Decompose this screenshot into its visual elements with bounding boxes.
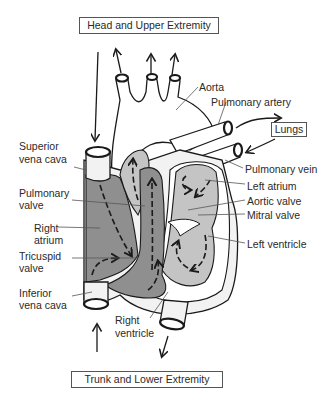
label-right-ventricle-2: ventricle: [115, 327, 154, 339]
label-superior-vena-cava-2: vena cava: [19, 153, 67, 165]
from-lungs-arrow: [247, 139, 275, 152]
label-pulmonary-artery: Pulmonary artery: [211, 96, 291, 108]
label-tricuspid-valve-2: valve: [19, 262, 44, 274]
label-aorta: Aorta: [199, 81, 224, 93]
label-aortic-valve: Aortic valve: [247, 195, 301, 207]
label-superior-vena-cava-1: Superior: [19, 140, 59, 152]
label-pulmonary-valve-1: Pulmonary: [19, 187, 69, 199]
label-tricuspid-valve-1: Tricuspid: [19, 250, 61, 262]
brachiocephalic-outflow-arrow: [116, 50, 121, 73]
descending-aorta-outflow-arrow: [162, 336, 168, 356]
heart-diagram: Head and Upper Extremity Trunk and Lower…: [0, 0, 335, 408]
superior-vena-cava-shape: [86, 147, 110, 181]
label-inferior-vena-cava-1: Inferior: [19, 287, 52, 299]
svc-inflow-arrow: [95, 52, 98, 140]
label-right-ventricle-1: Right: [115, 314, 140, 326]
label-left-atrium: Left atrium: [247, 180, 297, 192]
subclavian-outflow-arrow: [172, 55, 175, 75]
label-pulmonary-valve-2: valve: [19, 199, 44, 211]
descending-aorta-shape: [159, 300, 188, 331]
head-upper-extremity-box: Head and Upper Extremity: [79, 17, 219, 34]
label-pulmonary-vein: Pulmonary vein: [245, 163, 317, 175]
label-inferior-vena-cava-2: vena cava: [19, 299, 67, 311]
trunk-lower-extremity-box: Trunk and Lower Extremity: [71, 371, 223, 388]
lungs-box: Lungs: [271, 122, 307, 137]
inferior-vena-cava-shape: [84, 282, 108, 309]
label-left-ventricle: Left ventricle: [247, 238, 307, 250]
label-right-atrium-1: Right: [34, 222, 59, 234]
label-mitral-valve: Mitral valve: [247, 209, 300, 221]
label-right-atrium-2: atrium: [34, 234, 63, 246]
